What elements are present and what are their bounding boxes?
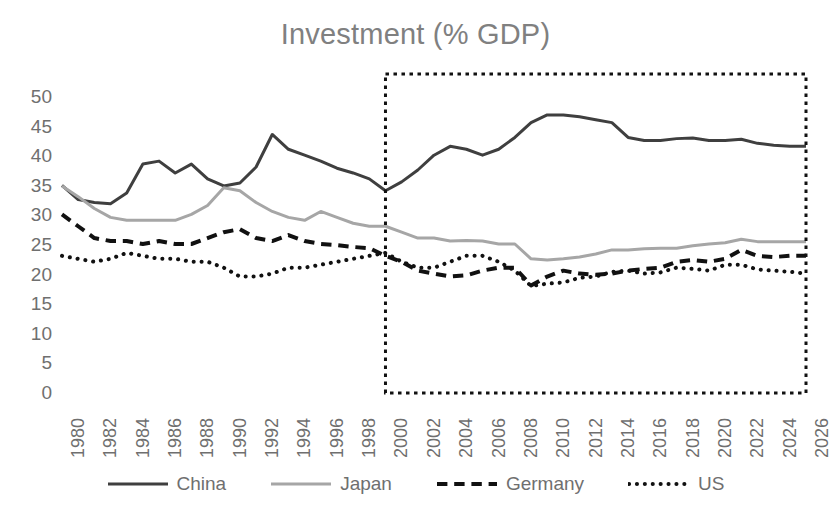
forecast-period-box (385, 74, 806, 393)
legend-item-japan[interactable]: Japan (270, 474, 392, 493)
legend-swatch-germany-icon (436, 477, 498, 491)
legend-label: Germany (506, 474, 584, 493)
legend-swatch-us-icon (628, 477, 690, 491)
series-line-japan (62, 186, 806, 260)
series-line-china (62, 115, 806, 204)
legend-label: US (698, 474, 724, 493)
chart-legend: ChinaJapanGermanyUS (0, 474, 831, 493)
legend-item-china[interactable]: China (107, 474, 227, 493)
chart-container: Investment (% GDP) 50454035302520151050 … (0, 0, 831, 521)
legend-item-us[interactable]: US (628, 474, 724, 493)
legend-label: China (177, 474, 227, 493)
series-line-us (62, 253, 806, 286)
series-group (62, 115, 806, 286)
legend-swatch-china-icon (107, 477, 169, 491)
series-line-germany (62, 214, 806, 285)
legend-label: Japan (340, 474, 392, 493)
legend-swatch-japan-icon (270, 477, 332, 491)
legend-item-germany[interactable]: Germany (436, 474, 584, 493)
plot-area (0, 0, 831, 521)
